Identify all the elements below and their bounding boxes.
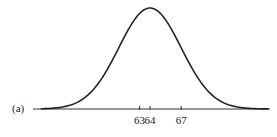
panel-label: (a) xyxy=(12,103,24,114)
tick-label: 64 xyxy=(145,115,156,126)
normal-density-curve xyxy=(41,8,270,109)
tick-label: 67 xyxy=(176,115,187,126)
tick-label: 63 xyxy=(134,115,145,126)
